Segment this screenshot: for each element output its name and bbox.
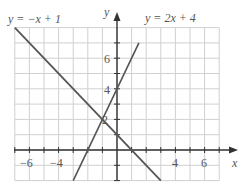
x-tick-label-neg6: −6 bbox=[20, 156, 33, 170]
x-tick-label-4: 4 bbox=[172, 156, 178, 170]
y-tick-label-2: 2 bbox=[102, 113, 108, 127]
equation-label-2: y = 2x + 4 bbox=[144, 11, 196, 25]
y-tick-label-4: 4 bbox=[104, 83, 110, 97]
equation-label-1: y = −x + 1 bbox=[7, 12, 61, 26]
y-tick-label-6: 6 bbox=[104, 52, 110, 66]
y-axis-arrow-icon bbox=[114, 12, 121, 21]
x-axis-label: x bbox=[231, 156, 238, 170]
coordinate-plane: y = −x + 1 y = 2x + 4 y x −6 −4 4 6 2 4 … bbox=[0, 0, 248, 194]
x-tick-label-6: 6 bbox=[201, 156, 207, 170]
x-tick-label-neg4: −4 bbox=[50, 156, 63, 170]
y-axis-label: y bbox=[103, 5, 110, 19]
x-axis-arrow-icon bbox=[229, 147, 238, 154]
